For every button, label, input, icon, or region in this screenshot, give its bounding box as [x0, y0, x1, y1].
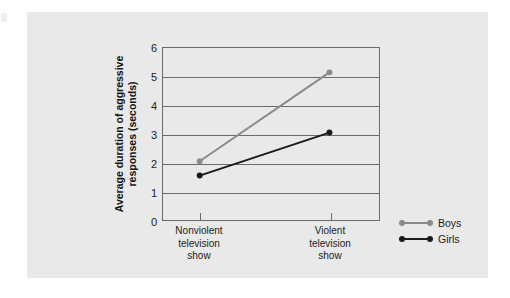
- x-axis-category-label-line: Nonviolent: [139, 225, 259, 238]
- x-axis-category-label-line: show: [270, 250, 390, 263]
- series-line-girls: [200, 133, 330, 176]
- data-point-girls: [326, 130, 332, 136]
- y-axis-tick-label: 2: [151, 158, 157, 170]
- legend-marker-icon: [399, 234, 433, 244]
- x-axis-category-label-line: Violent: [270, 225, 390, 238]
- y-axis-tick-label: 1: [151, 187, 157, 199]
- y-axis-title-text: Average duration of aggressive responses…: [113, 47, 139, 221]
- series-layer: [163, 48, 379, 220]
- plot-area: 0123456: [162, 47, 380, 221]
- x-axis-category-label-line: television: [270, 238, 390, 251]
- y-axis-tick-label: 4: [151, 100, 157, 112]
- y-axis-tick-label: 3: [151, 129, 157, 141]
- legend-marker-icon: [399, 218, 433, 228]
- chart-legend: BoysGirls: [399, 215, 461, 247]
- y-axis-tick-label: 6: [151, 42, 157, 54]
- legend-label: Girls: [438, 233, 460, 245]
- x-axis-category-label-line: show: [139, 250, 259, 263]
- page-edge-artifact: [1, 13, 7, 22]
- data-point-boys: [326, 69, 332, 75]
- y-axis-tick-label: 5: [151, 71, 157, 83]
- legend-label: Boys: [438, 217, 461, 229]
- x-axis-category-label: Violenttelevisionshow: [270, 225, 390, 263]
- legend-item-boys: Boys: [399, 215, 461, 231]
- x-axis-category-label: Nonviolenttelevisionshow: [139, 225, 259, 263]
- y-axis-title: Average duration of aggressive responses…: [109, 47, 143, 221]
- data-point-boys: [197, 158, 203, 164]
- figure-card: Average duration of aggressive responses…: [27, 12, 488, 278]
- data-point-girls: [197, 173, 203, 179]
- x-axis-category-label-line: television: [139, 238, 259, 251]
- series-line-boys: [200, 72, 330, 161]
- legend-item-girls: Girls: [399, 231, 461, 247]
